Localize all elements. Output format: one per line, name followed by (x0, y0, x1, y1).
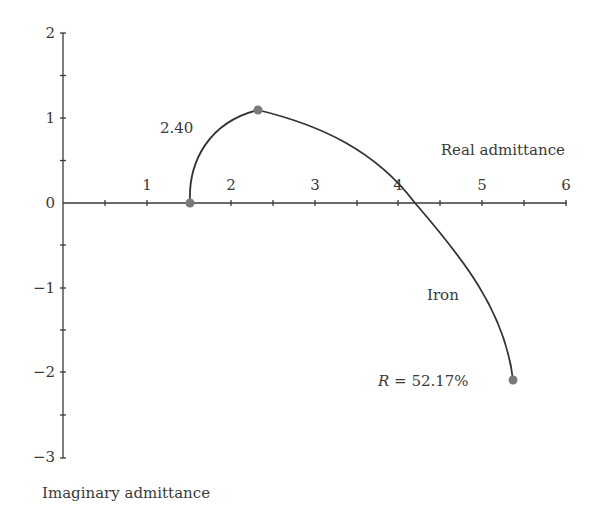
y-axis-title: Imaginary admittance (42, 484, 210, 502)
peak-point-marker (254, 106, 263, 115)
y-tick-0: 0 (45, 194, 55, 212)
x-tick-1: 1 (142, 176, 152, 194)
y-axis (60, 33, 66, 458)
peak-annotation: 2.40 (160, 119, 193, 137)
x-axis (63, 200, 567, 206)
r-value: = 52.17% (389, 372, 468, 390)
end-point-marker (509, 376, 518, 385)
y-tick-2: 2 (45, 24, 55, 42)
y-tick-m2: −2 (33, 363, 55, 381)
x-axis-title: Real admittance (441, 141, 565, 159)
r-value-annotation: R = 52.17% (377, 372, 469, 390)
start-point-marker (186, 199, 195, 208)
x-tick-6: 6 (561, 176, 571, 194)
y-tick-m1: −1 (33, 279, 55, 297)
y-tick-m3: −3 (33, 448, 55, 466)
y-tick-1: 1 (45, 109, 55, 127)
x-tick-labels: 1 2 3 4 5 6 (142, 176, 571, 194)
y-tick-labels: 2 1 0 −1 −2 −3 (33, 24, 55, 466)
admittance-chart: 2 1 0 −1 −2 −3 1 2 3 4 5 6 Real admittan… (0, 0, 594, 521)
x-tick-5: 5 (477, 176, 487, 194)
r-variable: R (377, 372, 389, 390)
x-tick-2: 2 (226, 176, 236, 194)
series-label-iron: Iron (427, 286, 459, 304)
x-tick-3: 3 (310, 176, 320, 194)
